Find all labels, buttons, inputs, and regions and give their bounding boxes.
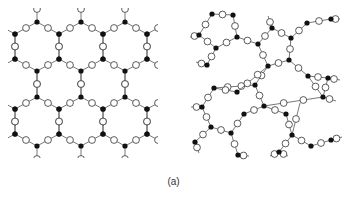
black-node bbox=[325, 75, 330, 80]
white-node bbox=[282, 140, 289, 147]
black-node bbox=[320, 94, 325, 99]
black-node bbox=[328, 16, 333, 21]
white-node bbox=[188, 118, 195, 125]
black-node bbox=[34, 68, 39, 73]
white-node bbox=[34, 156, 41, 163]
white-node bbox=[23, 25, 30, 32]
black-node bbox=[144, 56, 149, 61]
white-node bbox=[155, 62, 162, 69]
bond-line bbox=[169, 22, 191, 34]
white-node bbox=[300, 97, 307, 104]
black-node bbox=[241, 111, 246, 116]
white-node bbox=[256, 92, 263, 99]
black-node bbox=[199, 104, 204, 109]
white-node bbox=[166, 156, 173, 163]
white-node bbox=[298, 137, 305, 144]
black-node bbox=[122, 143, 127, 148]
white-node bbox=[56, 43, 63, 50]
bond-line bbox=[169, 134, 191, 146]
black-node bbox=[269, 25, 274, 30]
black-node bbox=[34, 143, 39, 148]
black-node bbox=[261, 103, 266, 108]
black-node bbox=[34, 94, 39, 99]
white-node bbox=[280, 100, 287, 107]
white-node bbox=[240, 152, 247, 159]
white-node bbox=[23, 137, 30, 144]
white-node bbox=[188, 43, 195, 50]
black-node bbox=[100, 106, 105, 111]
black-node bbox=[196, 32, 201, 37]
white-node bbox=[67, 25, 74, 32]
white-node bbox=[296, 27, 303, 34]
white-node bbox=[133, 137, 140, 144]
black-node bbox=[166, 94, 171, 99]
black-node bbox=[265, 63, 270, 68]
white-node bbox=[78, 6, 85, 13]
black-node bbox=[208, 124, 213, 129]
white-node bbox=[194, 144, 201, 151]
white-node bbox=[318, 140, 325, 147]
black-node bbox=[211, 85, 216, 90]
white-node bbox=[89, 62, 96, 69]
white-node bbox=[23, 100, 30, 107]
white-node bbox=[133, 62, 140, 69]
white-node bbox=[312, 83, 319, 90]
white-node bbox=[100, 118, 107, 125]
white-node bbox=[219, 11, 226, 18]
white-node bbox=[315, 74, 322, 81]
white-node bbox=[316, 18, 323, 25]
white-node bbox=[45, 25, 52, 32]
white-node bbox=[278, 30, 285, 37]
white-node bbox=[202, 21, 209, 28]
white-node bbox=[34, 6, 41, 13]
white-node bbox=[222, 87, 229, 94]
figure-canvas bbox=[0, 0, 347, 200]
white-node bbox=[331, 76, 338, 83]
white-node bbox=[177, 137, 184, 144]
white-node bbox=[166, 81, 173, 88]
white-node bbox=[56, 118, 63, 125]
black-node bbox=[192, 139, 197, 144]
white-node bbox=[45, 100, 52, 107]
white-node bbox=[208, 53, 215, 60]
black-node bbox=[144, 131, 149, 136]
white-node bbox=[223, 39, 230, 46]
black-node bbox=[252, 82, 257, 87]
black-node bbox=[56, 31, 61, 36]
black-node bbox=[56, 56, 61, 61]
white-node bbox=[166, 81, 173, 88]
figure-caption: (a) bbox=[0, 176, 347, 187]
white-node bbox=[244, 80, 251, 87]
white-node bbox=[144, 118, 151, 125]
black-node bbox=[235, 152, 240, 157]
white-node bbox=[272, 107, 279, 114]
white-node bbox=[122, 6, 129, 13]
black-node bbox=[122, 94, 127, 99]
white-node bbox=[177, 25, 184, 32]
white-node bbox=[111, 25, 118, 32]
white-node bbox=[155, 100, 162, 107]
white-node bbox=[78, 81, 85, 88]
black-node bbox=[78, 143, 83, 148]
black-node bbox=[12, 56, 17, 61]
black-node bbox=[56, 131, 61, 136]
white-node bbox=[234, 120, 241, 127]
white-node bbox=[260, 52, 267, 59]
white-node bbox=[89, 25, 96, 32]
black-node bbox=[166, 143, 171, 148]
black-node bbox=[328, 137, 333, 142]
white-node bbox=[322, 84, 329, 91]
black-node bbox=[78, 19, 83, 24]
white-node bbox=[203, 114, 210, 121]
white-node bbox=[267, 19, 274, 26]
white-node bbox=[111, 137, 118, 144]
black-node bbox=[209, 11, 214, 16]
white-node bbox=[286, 121, 293, 128]
bond-line bbox=[264, 97, 323, 106]
white-node bbox=[232, 23, 239, 30]
white-node bbox=[200, 131, 207, 138]
black-node bbox=[276, 149, 281, 154]
white-node bbox=[193, 104, 200, 111]
black-node bbox=[122, 68, 127, 73]
white-node bbox=[333, 135, 340, 142]
